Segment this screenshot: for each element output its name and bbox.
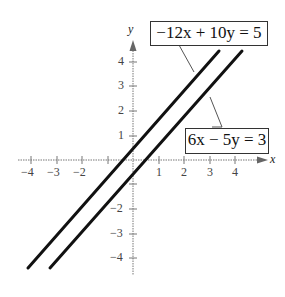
y-tick-label: 2	[118, 103, 124, 118]
x-tick-label: 2	[181, 165, 187, 180]
callout-pointer-eq2	[210, 97, 222, 127]
y-tick-label: 3	[118, 78, 124, 93]
y-tick-label: 4	[118, 54, 124, 69]
x-tick-label: −3	[47, 165, 60, 180]
y-tick-label: −2	[110, 201, 123, 216]
x-tick-label: −4	[21, 165, 34, 180]
y-tick-label: 1	[118, 128, 124, 143]
y-axis-label: y	[128, 22, 133, 37]
x-tick-label: 4	[232, 165, 238, 180]
x-tick-label: 3	[207, 165, 213, 180]
x-axis-label: x	[270, 152, 275, 167]
x-axis-arrow-icon	[257, 157, 268, 164]
y-axis-arrow-icon	[130, 40, 137, 51]
y-tick-label: −3	[110, 226, 123, 241]
x-tick-label: −2	[73, 165, 86, 180]
x-tick-label: 1	[156, 165, 162, 180]
equation-label-2: 6x − 5y = 3	[185, 128, 269, 154]
y-tick-label: −4	[110, 250, 123, 265]
callout-pointer-eq1	[166, 45, 194, 72]
equation-label-1: −12x + 10y = 5	[150, 21, 268, 46]
